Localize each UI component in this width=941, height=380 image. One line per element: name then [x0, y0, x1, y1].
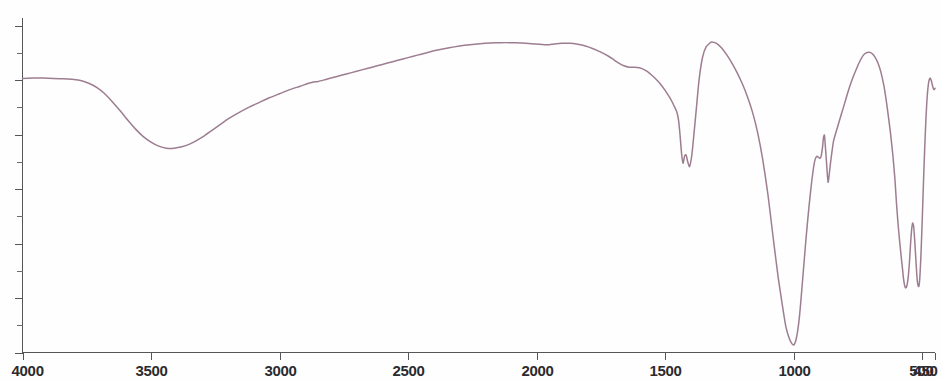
x-axis-tick-label: 450: [913, 362, 937, 379]
spectrum-plot-area: 4000350030002500200015001000500450: [0, 0, 941, 380]
x-axis-tick-label: 1000: [778, 362, 810, 379]
x-axis-tick-label: 3000: [264, 362, 296, 379]
plot-background: [0, 0, 941, 380]
x-axis-tick-label: 3500: [135, 362, 167, 379]
x-axis-tick-label: 2000: [521, 362, 553, 379]
x-axis-tick-label: 2500: [392, 362, 424, 379]
ir-spectrum-figure: 4000350030002500200015001000500450: [0, 0, 941, 380]
x-axis-tick-label: 1500: [649, 362, 681, 379]
x-axis-tick-label: 4000: [12, 362, 44, 379]
